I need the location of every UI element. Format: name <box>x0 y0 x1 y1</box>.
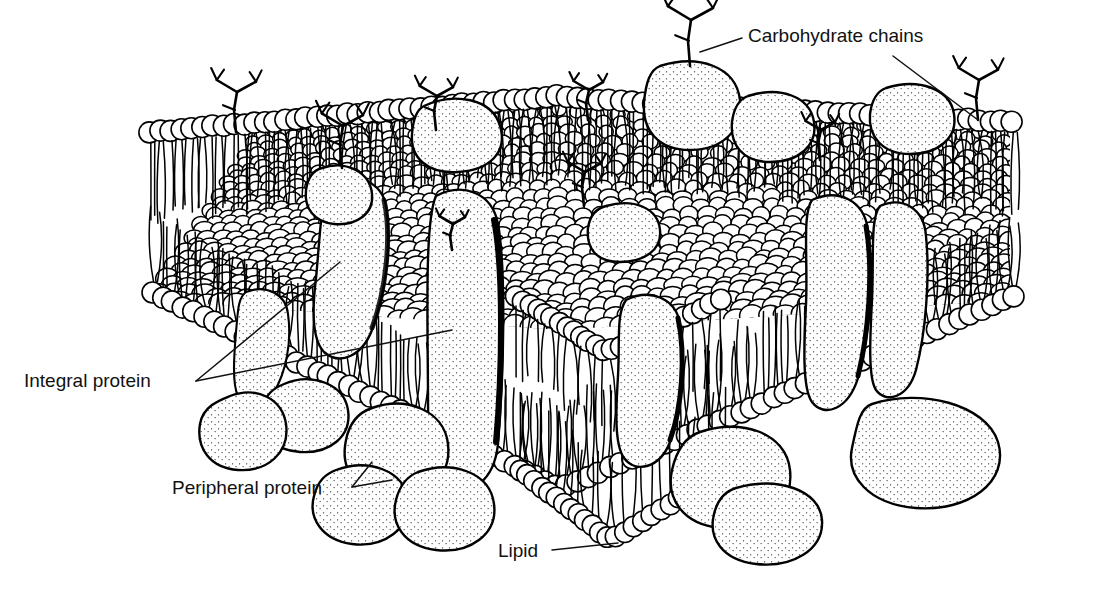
surface-protein <box>644 61 741 150</box>
label-carbohydrate-chains: Carbohydrate chains <box>748 25 923 46</box>
peripheral-protein <box>395 467 495 550</box>
peripheral-protein <box>851 398 1000 509</box>
surface-protein <box>588 203 660 262</box>
integral-protein <box>804 195 870 410</box>
surface-protein <box>412 99 502 172</box>
integral-protein <box>870 203 927 398</box>
surface-protein <box>870 84 955 154</box>
leader-line-carbohydrate-chains <box>700 38 742 52</box>
figure-canvas: Carbohydrate chainsIntegral proteinPerip… <box>0 0 1099 591</box>
membrane-diagram: Carbohydrate chainsIntegral proteinPerip… <box>0 0 1099 591</box>
label-integral-protein: Integral protein <box>24 370 151 391</box>
peripheral-protein <box>713 484 822 565</box>
surface-protein <box>306 166 372 225</box>
surface-protein <box>732 92 815 162</box>
label-peripheral-protein: Peripheral protein <box>172 477 322 498</box>
label-lipid: Lipid <box>498 540 538 561</box>
peripheral-protein <box>199 392 286 470</box>
